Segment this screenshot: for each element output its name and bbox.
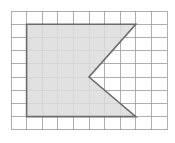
figure-container (0, 0, 175, 143)
grid-figure (0, 0, 175, 143)
